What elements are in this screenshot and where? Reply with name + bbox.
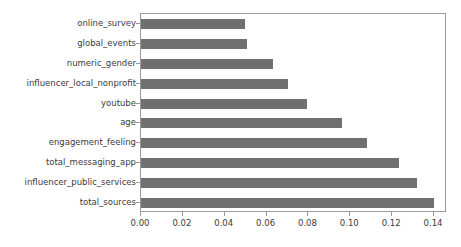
x-axis-tick-mark (391, 212, 392, 216)
x-axis-ticks: 0.000.020.040.060.080.100.120.14 (140, 212, 446, 242)
y-axis-tick-label: online_survey (0, 13, 136, 33)
y-axis-tick-label: global_events (0, 33, 136, 53)
bar (141, 19, 245, 29)
bar (141, 59, 273, 69)
x-axis-tick-label: 0.04 (214, 218, 233, 228)
x-axis-tick-mark (433, 212, 434, 216)
y-axis-labels: online_surveyglobal_eventsnumeric_gender… (0, 13, 136, 212)
y-axis-tick-label: total_sources (0, 192, 136, 212)
bar (141, 158, 399, 168)
bar (141, 99, 307, 109)
y-axis-tick-label: influencer_local_nonprofit (0, 73, 136, 93)
bar-row (141, 74, 445, 94)
bar-row (141, 193, 445, 213)
x-axis-tick-label: 0.02 (172, 218, 191, 228)
y-axis-tick-label: youtube (0, 93, 136, 113)
bar-row (141, 133, 445, 153)
bar (141, 79, 288, 89)
bar-row (141, 114, 445, 134)
x-axis-tick-label: 0.00 (131, 218, 150, 228)
feature-importance-bar-chart: online_surveyglobal_eventsnumeric_gender… (0, 0, 461, 247)
bar (141, 198, 434, 208)
x-axis-tick-label: 0.12 (382, 218, 401, 228)
bar (141, 118, 342, 128)
y-axis-tick-label: age (0, 113, 136, 133)
bar (141, 138, 367, 148)
x-axis-tick-label: 0.06 (256, 218, 275, 228)
x-axis-tick-label: 0.14 (424, 218, 443, 228)
x-axis-tick-mark (307, 212, 308, 216)
x-axis-tick-mark (266, 212, 267, 216)
bar-row (141, 54, 445, 74)
bar-row (141, 14, 445, 34)
plot-area (141, 14, 445, 211)
y-axis-tick-label: engagement_feeling (0, 132, 136, 152)
x-axis-tick-label: 0.08 (298, 218, 317, 228)
y-axis-tick-label: numeric_gender (0, 53, 136, 73)
bar-row (141, 94, 445, 114)
x-axis-tick-mark (224, 212, 225, 216)
x-axis-tick-mark (140, 212, 141, 216)
plot-axes-frame (140, 13, 446, 212)
x-axis-tick-mark (349, 212, 350, 216)
bar-row (141, 34, 445, 54)
bar (141, 39, 247, 49)
x-axis-tick-mark (182, 212, 183, 216)
bar-row (141, 173, 445, 193)
y-axis-tick-label: total_messaging_app (0, 152, 136, 172)
y-axis-tick-label: influencer_public_services (0, 172, 136, 192)
bar-row (141, 153, 445, 173)
bar (141, 178, 417, 188)
x-axis-tick-label: 0.10 (340, 218, 359, 228)
